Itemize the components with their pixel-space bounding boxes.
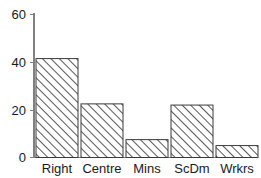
y-tick-label-0: 0	[19, 150, 26, 165]
y-tick-label-20: 20	[12, 103, 26, 118]
x-label-scdm: ScDm	[174, 161, 209, 176]
x-label-centre: Centre	[82, 161, 121, 176]
x-label-right: Right	[42, 161, 73, 176]
chart-canvas: 0 20 40 60 Right Centre Mins ScDm Wrkrs	[0, 0, 261, 178]
bar-centre	[81, 104, 123, 158]
y-tick-label-60: 60	[12, 7, 26, 22]
y-tick-label-40: 40	[12, 55, 26, 70]
bar-mins	[126, 140, 168, 158]
x-label-wrkrs: Wrkrs	[220, 161, 254, 176]
bar-wrkrs	[216, 146, 258, 158]
bar-scdm	[171, 105, 213, 157]
x-label-mins: Mins	[133, 161, 161, 176]
bar-right	[36, 59, 78, 158]
bar-chart: 0 20 40 60 Right Centre Mins ScDm Wrkrs	[0, 0, 261, 178]
